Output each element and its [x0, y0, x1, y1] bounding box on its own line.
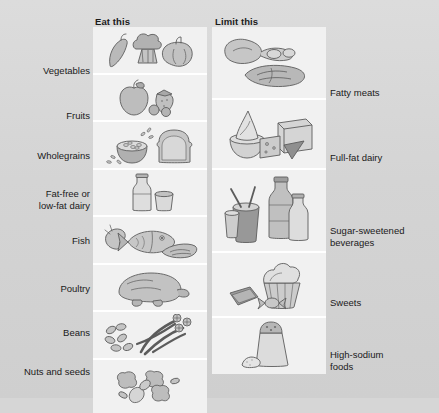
cell-fruits	[93, 75, 207, 122]
label-low-fat-dairy-line1: Fat-free or	[0, 188, 90, 200]
eat-this-column	[93, 27, 207, 374]
label-fatty-meats: Fatty meats	[330, 87, 438, 99]
label-low-fat-dairy-line2: low-fat dairy	[0, 200, 90, 212]
label-fruits: Fruits	[0, 110, 90, 122]
vegetables-icon	[102, 29, 198, 71]
cell-wholegrains	[93, 122, 207, 170]
label-wholegrains: Wholegrains	[0, 150, 90, 162]
sugary-beverages-icon	[223, 175, 315, 247]
label-high-sodium-foods-line2: foods	[330, 361, 438, 373]
label-full-fat-dairy: Full-fat dairy	[330, 152, 438, 164]
full-fat-dairy-icon	[222, 105, 316, 163]
low-fat-dairy-icon	[115, 172, 185, 214]
label-beans: Beans	[0, 327, 90, 339]
label-nuts-and-seeds: Nuts and seeds	[0, 366, 90, 378]
label-poultry: Poultry	[0, 283, 90, 295]
cell-low-fat-dairy	[93, 170, 207, 217]
fruits-icon	[110, 78, 190, 118]
label-high-sodium-foods: High-sodium foods	[330, 349, 438, 372]
label-vegetables: Vegetables	[0, 65, 90, 77]
cell-beans	[93, 312, 207, 360]
column-header-limit-this: Limit this	[215, 16, 258, 27]
label-high-sodium-foods-line1: High-sodium	[330, 349, 438, 361]
beans-icon	[101, 314, 199, 356]
cell-fish	[93, 217, 207, 265]
sweets-icon	[224, 257, 314, 313]
label-sugary-beverages: Sugar-sweetened beverages	[330, 225, 438, 248]
cell-sweets	[212, 253, 326, 318]
cell-nuts-and-seeds	[93, 360, 207, 413]
column-header-eat-this: Eat this	[95, 16, 130, 27]
cell-vegetables	[93, 27, 207, 75]
nuts-and-seeds-icon	[113, 367, 187, 407]
cell-poultry	[93, 265, 207, 312]
cell-high-sodium-foods	[212, 318, 326, 374]
limit-this-column	[212, 27, 326, 374]
label-low-fat-dairy: Fat-free or low-fat dairy	[0, 188, 90, 211]
cell-fatty-meats	[212, 27, 326, 100]
fish-icon	[100, 220, 200, 260]
poultry-icon	[107, 268, 193, 308]
label-fish: Fish	[0, 235, 90, 247]
label-sugary-beverages-line1: Sugar-sweetened	[330, 225, 438, 237]
label-sweets: Sweets	[330, 297, 438, 309]
fatty-meats-icon	[219, 35, 319, 91]
cell-sugary-beverages	[212, 170, 326, 253]
wholegrains-icon	[103, 124, 197, 166]
high-sodium-foods-icon	[234, 319, 304, 373]
cell-full-fat-dairy	[212, 100, 326, 170]
label-sugary-beverages-line2: beverages	[330, 237, 438, 249]
